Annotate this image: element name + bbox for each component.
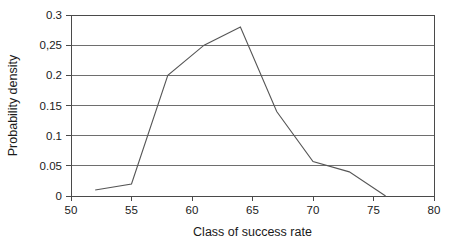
y-tick-label-0: 0 (56, 190, 62, 202)
y-axis-ticks (66, 15, 71, 196)
y-tick-label-0-25: 0,25 (40, 39, 62, 51)
chart-screenshot: 0.3 0,25 0.2 0.15 0.1 0.05 0 50 55 60 65… (0, 0, 456, 247)
data-series-probability-density (95, 27, 385, 196)
y-tick-label-0-1: 0.1 (46, 130, 62, 142)
x-axis-ticks (71, 196, 434, 201)
x-tick-label-75: 75 (367, 204, 380, 216)
x-tick-label-50: 50 (65, 204, 78, 216)
x-axis-tick-labels: 50 55 60 65 70 75 80 (65, 204, 441, 216)
y-axis-tick-labels: 0.3 0,25 0.2 0.15 0.1 0.05 0 (40, 9, 62, 202)
y-tick-label-0-05: 0.05 (40, 160, 62, 172)
y-tick-label-0-15: 0.15 (40, 100, 62, 112)
x-tick-label-60: 60 (186, 204, 199, 216)
y-tick-label-0-3: 0.3 (46, 9, 62, 21)
y-axis-title: Probability density (6, 54, 20, 156)
x-tick-label-55: 55 (125, 204, 138, 216)
x-tick-label-70: 70 (307, 204, 320, 216)
x-tick-label-80: 80 (428, 204, 441, 216)
x-axis-title: Class of success rate (193, 225, 312, 239)
gridlines (71, 45, 434, 166)
probability-density-line-chart: 0.3 0,25 0.2 0.15 0.1 0.05 0 50 55 60 65… (0, 0, 456, 247)
y-tick-label-0-2: 0.2 (46, 69, 62, 81)
x-tick-label-65: 65 (246, 204, 259, 216)
